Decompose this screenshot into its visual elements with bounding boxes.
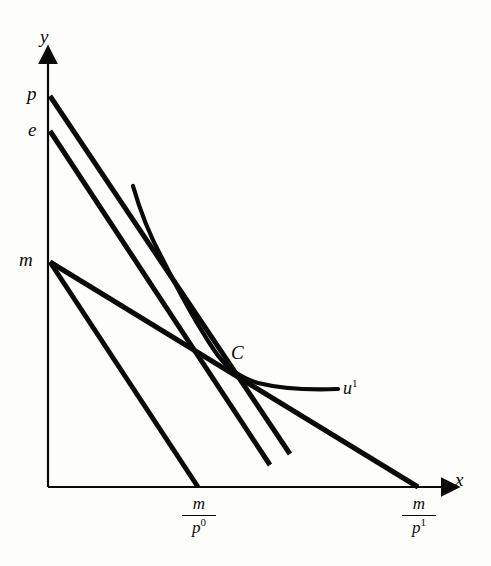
fraction-bar xyxy=(182,515,216,517)
y-intercept-label-p: p xyxy=(27,84,37,103)
fraction-bar xyxy=(402,515,436,517)
fraction-numerator: m xyxy=(182,495,216,514)
denominator-exponent: 0 xyxy=(201,517,207,529)
budget-line-e xyxy=(50,131,270,465)
y-intercept-label-e: e xyxy=(28,120,36,139)
x-intercept-label-m-over-p1: m p1 xyxy=(402,495,436,537)
tangency-point-label-c: C xyxy=(231,343,244,362)
y-axis-label: y xyxy=(40,27,48,46)
x-axis-label: x xyxy=(455,470,463,489)
axes-group xyxy=(48,62,443,487)
y-intercept-label-m: m xyxy=(19,250,33,269)
indifference-curve-label-u1: u1 xyxy=(343,379,358,397)
economics-diagram: y x p e m m p0 m p1 C u1 xyxy=(0,0,491,566)
denominator-exponent: 1 xyxy=(421,517,427,529)
curve-label-exponent: 1 xyxy=(352,377,358,389)
denominator-base: p xyxy=(192,518,201,537)
budget-lines-group xyxy=(50,96,418,487)
plot-canvas xyxy=(0,0,491,566)
fraction-denominator: p1 xyxy=(402,518,436,537)
denominator-base: p xyxy=(412,518,421,537)
fraction-numerator: m xyxy=(402,495,436,514)
x-intercept-label-m-over-p0: m p0 xyxy=(182,495,216,537)
curve-label-base: u xyxy=(343,378,352,398)
fraction-denominator: p0 xyxy=(182,518,216,537)
budget-line-m-p0 xyxy=(50,262,198,487)
budget-line-m-p1 xyxy=(50,262,418,487)
